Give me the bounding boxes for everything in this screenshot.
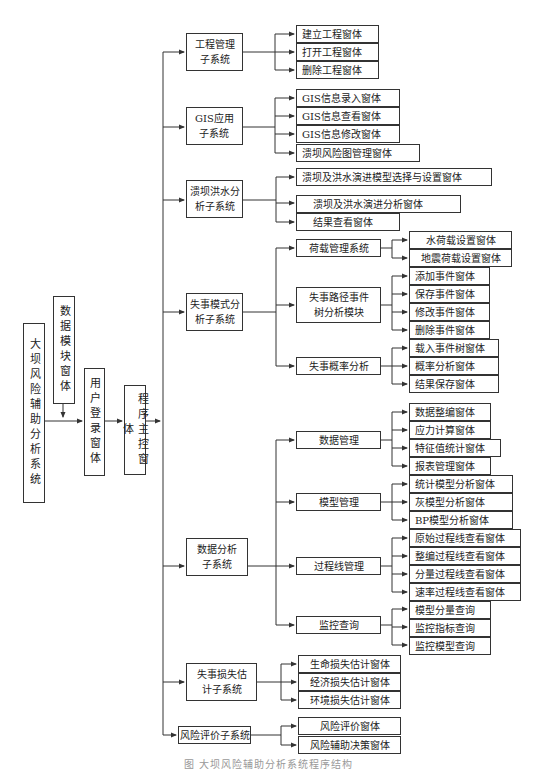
leaf-window: 结果保存窗体 xyxy=(409,375,499,393)
module-model-mgmt: 模型管理 xyxy=(296,493,381,511)
leaf-label: 原始过程线查看窗体 xyxy=(415,531,505,546)
leaf-window: 风险评价窗体 xyxy=(298,717,401,735)
subsystem-risk-eval: 风险评价子系统 xyxy=(178,726,251,744)
login-window-label: 用户登录窗体 xyxy=(87,377,102,467)
leaf-label: 分量过程线查看窗体 xyxy=(415,567,505,582)
leaf-label: 结果保存窗体 xyxy=(415,377,475,392)
leaf-window: 监控指标查询 xyxy=(409,619,491,637)
subsystem-flood-label: 溃坝洪水分 析子系统 xyxy=(190,184,240,214)
leaf-label: 建立工程窗体 xyxy=(302,27,362,42)
leaf-label: 删除工程窗体 xyxy=(302,63,362,78)
leaf-label: 模型分量查询 xyxy=(415,603,475,618)
module-event-tree: 失事路径事件 树分析模块 xyxy=(296,287,381,323)
subsystem-failure-mode-label: 失事模式分 析子系统 xyxy=(190,297,240,327)
root-system-box: 大坝风险辅助分析系统 xyxy=(23,323,45,503)
leaf-label: 保存事件窗体 xyxy=(415,287,475,302)
leaf-window: BP模型分析窗体 xyxy=(409,511,513,529)
leaf-window: 经济损失估计窗体 xyxy=(298,673,401,691)
leaf-label: 溃坝风险图管理窗体 xyxy=(302,146,392,161)
subsystem-gis: GIS应用 子系统 xyxy=(186,107,243,145)
subsystem-project-label: 工程管理 子系统 xyxy=(195,37,235,67)
figure-caption: 图 大坝风险辅助分析系统程序结构 xyxy=(0,756,537,771)
leaf-label: 监控模型查询 xyxy=(415,639,475,654)
leaf-label: 整编过程线查看窗体 xyxy=(415,549,505,564)
data-module-box: 数据模块窗体 xyxy=(53,296,75,404)
leaf-window: 保存事件窗体 xyxy=(409,285,490,303)
subsystem-project: 工程管理 子系统 xyxy=(186,33,243,71)
subsystem-data-analysis: 数据分析 子系统 xyxy=(186,538,248,576)
leaf-label: 特征值统计窗体 xyxy=(415,441,485,456)
module-label: 监控查询 xyxy=(319,618,359,633)
leaf-window: 打开工程窗体 xyxy=(296,43,379,61)
leaf-window: 删除事件窗体 xyxy=(409,321,490,339)
module-data-mgmt: 数据管理 xyxy=(296,431,381,449)
leaf-window: 溃坝及洪水演进分析窗体 xyxy=(296,195,461,213)
leaf-window: GIS信息修改窗体 xyxy=(296,125,400,143)
leaf-label: GIS信息修改窗体 xyxy=(302,127,381,142)
leaf-window: 建立工程窗体 xyxy=(296,25,379,43)
module-load: 荷载管理系统 xyxy=(296,239,381,257)
leaf-window: 删除工程窗体 xyxy=(296,61,379,79)
leaf-label: 速率过程线查看窗体 xyxy=(415,585,505,600)
leaf-label: 应力计算窗体 xyxy=(415,423,475,438)
leaf-window: 水荷载设置窗体 xyxy=(409,231,512,249)
module-monitoring: 监控查询 xyxy=(296,616,381,634)
leaf-window: 概率分析窗体 xyxy=(409,357,499,375)
leaf-window: 结果查看窗体 xyxy=(296,213,400,231)
leaf-window: 速率过程线查看窗体 xyxy=(409,583,521,601)
module-process-line: 过程线管理 xyxy=(296,557,381,575)
leaf-label: 修改事件窗体 xyxy=(415,305,475,320)
leaf-window: 分量过程线查看窗体 xyxy=(409,565,521,583)
leaf-label: 灰模型分析窗体 xyxy=(415,495,485,510)
leaf-window: 生命损失估计窗体 xyxy=(298,655,401,673)
data-module-label: 数据模块窗体 xyxy=(57,305,72,395)
leaf-label: 经济损失估计窗体 xyxy=(310,675,390,690)
module-label: 荷载管理系统 xyxy=(309,241,369,256)
leaf-label: 统计模型分析窗体 xyxy=(415,477,495,492)
subsystem-flood: 溃坝洪水分 析子系统 xyxy=(186,180,243,218)
leaf-window: 原始过程线查看窗体 xyxy=(409,529,521,547)
leaf-window: 报表管理窗体 xyxy=(409,457,491,475)
leaf-window: 灰模型分析窗体 xyxy=(409,493,513,511)
leaf-label: 环境损失估计窗体 xyxy=(310,693,390,708)
subsystem-loss-label: 失事损失估 计子系统 xyxy=(197,667,247,697)
main-control-box: 程序主控窗体 xyxy=(124,385,146,475)
leaf-label: 报表管理窗体 xyxy=(415,459,475,474)
leaf-window: 添加事件窗体 xyxy=(409,267,490,285)
leaf-label: 删除事件窗体 xyxy=(415,323,475,338)
leaf-window: 数据整编窗体 xyxy=(409,403,491,421)
leaf-label: 溃坝及洪水演进模型选择与设置窗体 xyxy=(302,170,462,185)
leaf-window: 溃坝及洪水演进模型选择与设置窗体 xyxy=(296,168,492,186)
leaf-label: 水荷载设置窗体 xyxy=(426,233,496,248)
leaf-label: 载入事件树窗体 xyxy=(415,341,485,356)
leaf-label: 风险辅助决策窗体 xyxy=(310,738,390,753)
system-structure-diagram: 大坝风险辅助分析系统 数据模块窗体 用户登录窗体 程序主控窗体 工程管理 子系统… xyxy=(0,0,537,774)
leaf-label: 地震荷载设置窗体 xyxy=(421,251,501,266)
module-probability: 失事概率分析 xyxy=(296,357,381,375)
leaf-label: 打开工程窗体 xyxy=(302,45,362,60)
leaf-window: 统计模型分析窗体 xyxy=(409,475,513,493)
leaf-window: 风险辅助决策窗体 xyxy=(298,736,401,754)
leaf-window: 应力计算窗体 xyxy=(409,421,491,439)
leaf-label: BP模型分析窗体 xyxy=(415,513,489,528)
subsystem-failure-mode: 失事模式分 析子系统 xyxy=(186,293,243,331)
module-label: 过程线管理 xyxy=(314,559,364,574)
leaf-label: GIS信息录入窗体 xyxy=(302,91,381,106)
leaf-window: 环境损失估计窗体 xyxy=(298,691,401,709)
subsystem-gis-label: GIS应用 子系统 xyxy=(195,111,234,141)
module-label: 失事概率分析 xyxy=(309,359,369,374)
leaf-window: GIS信息录入窗体 xyxy=(296,89,400,107)
subsystem-data-analysis-label: 数据分析 子系统 xyxy=(197,542,237,572)
leaf-label: 结果查看窗体 xyxy=(313,215,373,230)
leaf-window: 整编过程线查看窗体 xyxy=(409,547,521,565)
root-system-label: 大坝风险辅助分析系统 xyxy=(27,338,42,488)
leaf-label: 风险评价窗体 xyxy=(320,719,380,734)
main-control-label: 程序主控窗体 xyxy=(120,386,150,474)
leaf-label: 生命损失估计窗体 xyxy=(310,657,390,672)
leaf-label: 溃坝及洪水演进分析窗体 xyxy=(313,197,423,212)
leaf-window: 载入事件树窗体 xyxy=(409,339,499,357)
leaf-window: 模型分量查询 xyxy=(409,601,491,619)
module-label: 失事路径事件 树分析模块 xyxy=(309,290,369,320)
leaf-label: 概率分析窗体 xyxy=(415,359,475,374)
leaf-label: 数据整编窗体 xyxy=(415,405,475,420)
